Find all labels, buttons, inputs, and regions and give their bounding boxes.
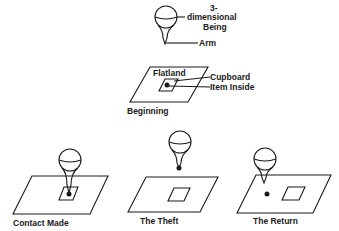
panel-beginning: 3- dimensional Being Arm Flatland Cupboa… <box>127 3 255 116</box>
caption-the-return: The Return <box>253 216 298 226</box>
label-cupboard: Cupboard <box>210 72 250 82</box>
item-icon <box>177 166 182 171</box>
three-d-being-icon <box>169 131 191 168</box>
flatland-plane <box>237 175 331 213</box>
panel-the-return: The Return <box>237 148 331 226</box>
caption-contact-made: Contact Made <box>13 218 69 228</box>
flatland-plane <box>128 177 218 212</box>
cupboard-icon <box>168 188 190 201</box>
cupboard-icon <box>282 187 305 200</box>
caption-beginning: Beginning <box>127 106 169 116</box>
label-item-inside: Item Inside <box>210 82 255 92</box>
three-d-being-icon <box>59 149 81 193</box>
item-icon <box>265 192 270 197</box>
label-flatland: Flatland <box>153 68 186 78</box>
item-icon <box>67 192 72 197</box>
caption-the-theft: The Theft <box>140 216 178 226</box>
flatland-diagram: 3- dimensional Being Arm Flatland Cupboa… <box>0 0 339 231</box>
label-being: Being <box>203 22 227 32</box>
three-d-being-icon <box>155 6 177 44</box>
panel-contact-made: Contact Made <box>13 149 108 228</box>
panel-the-theft: The Theft <box>128 131 218 226</box>
label-arm: Arm <box>199 38 216 48</box>
label-dimensional: dimensional <box>187 12 237 22</box>
item-icon <box>165 83 170 88</box>
three-d-being-icon <box>254 148 276 183</box>
